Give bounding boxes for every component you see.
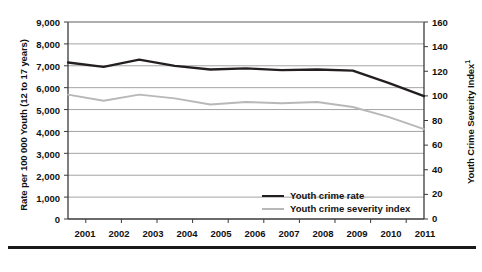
legend-swatch-light-line-icon xyxy=(262,208,284,210)
chart-legend: Youth crime rate Youth crime severity in… xyxy=(262,189,410,215)
legend-swatch-dark-line-icon xyxy=(262,195,284,197)
bottom-rule-divider xyxy=(8,246,476,249)
legend-label-youth-crime-severity-index: Youth crime severity index xyxy=(290,203,410,214)
series-lines xyxy=(68,60,424,129)
legend-label-youth-crime-rate: Youth crime rate xyxy=(290,190,364,201)
gridlines xyxy=(68,22,424,197)
plot-area xyxy=(0,0,482,272)
legend-item-youth-crime-rate: Youth crime rate xyxy=(262,189,410,202)
chart-figure: Rate per 100 000 Youth (12 to 17 years) … xyxy=(0,0,482,272)
legend-item-youth-crime-severity-index: Youth crime severity index xyxy=(262,202,410,215)
